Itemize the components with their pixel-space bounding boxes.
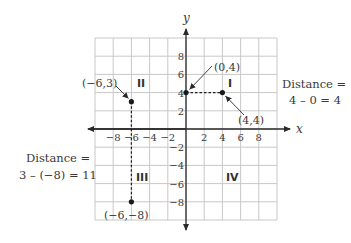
quadrant-label-ii: II [137,77,145,90]
point-0-4 [183,90,188,95]
annotation-horizontal-distance: Distance = 4 – 0 = 4 [282,77,346,107]
annotation-horizontal-line2: 4 – 0 = 4 [289,93,341,107]
y-tick-label: 8 [178,51,184,62]
x-tick-label: −4 [142,132,157,143]
quadrant-label-iv: IV [226,171,239,184]
coordinate-plane-diagram: x y −8−6−4−22468 8642−2−4−6−8 (−6,3) (0,… [0,0,351,243]
annotation-vertical-distance: Distance = 3 – (−8) = 11 [19,151,97,182]
point-label-neg6-neg8: (−6,−8) [104,209,149,222]
point-label-4-4: (4,4) [238,114,264,127]
point-neg6-3 [129,99,134,104]
y-tick-label: −4 [169,160,184,171]
x-tick-label: −8 [106,132,121,143]
annotation-horizontal-line1: Distance = [282,77,346,91]
quadrant-label-iii: III [136,171,148,184]
point-label-neg6-3: (−6,3) [82,77,117,90]
y-tick-label: 2 [178,106,184,117]
y-tick-label: 6 [178,69,184,80]
quadrant-label-i: I [228,77,232,90]
annotation-vertical-line1: Distance = [26,151,90,165]
x-tick-label: 6 [237,132,243,143]
point-label-0-4: (0,4) [214,61,240,74]
y-tick-label: 4 [178,88,184,99]
pointer-arrow-4-4 [226,96,245,115]
x-tick-label: 2 [201,132,207,143]
y-tick-label: −8 [169,197,184,208]
point-neg6-neg8 [129,199,134,204]
diagram-canvas: x y −8−6−4−22468 8642−2−4−6−8 (−6,3) (0,… [0,0,351,243]
y-axis-label: y [182,11,190,25]
y-tick-label: −6 [169,179,184,190]
x-tick-label: 8 [256,132,262,143]
pointer-arrow-0-4 [190,66,213,90]
point-4-4 [220,90,225,95]
x-axis-label: x [296,122,303,136]
annotation-vertical-line2: 3 – (−8) = 11 [19,168,97,182]
y-tick-label: −2 [169,142,184,153]
x-tick-label: 4 [219,132,225,143]
axes: x y [88,11,303,230]
